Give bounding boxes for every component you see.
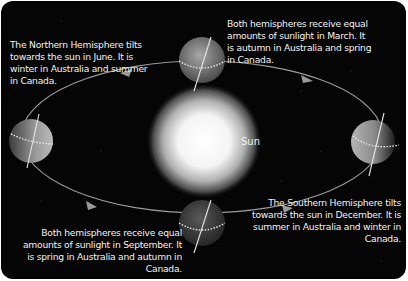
earth-december bbox=[351, 113, 399, 176]
diagram-panel: The Northern Hemisphere tilts towards th… bbox=[1, 1, 406, 279]
earth-june bbox=[9, 114, 53, 168]
caption-september: Both hemispheres receive equal amounts o… bbox=[21, 227, 182, 275]
caption-march: Both hemispheres receive equal amounts o… bbox=[227, 18, 372, 66]
earth-march bbox=[179, 37, 225, 91]
sun-label: Sun bbox=[241, 136, 260, 147]
earth-september bbox=[179, 200, 225, 253]
caption-june: The Northern Hemisphere tilts towards th… bbox=[10, 39, 150, 87]
caption-december: The Southern Hemisphere tilts towards th… bbox=[251, 197, 401, 245]
